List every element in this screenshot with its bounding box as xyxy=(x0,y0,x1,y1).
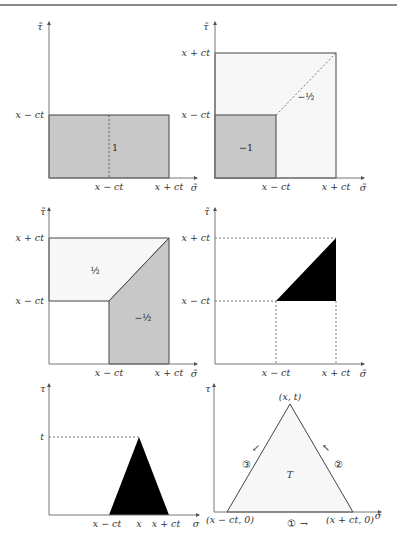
y-tick: t xyxy=(40,431,44,442)
x-axis-label: σ̃ xyxy=(191,182,198,193)
x-tick: x − ct xyxy=(95,181,124,192)
y-tick: x − ct xyxy=(182,295,211,306)
y-tick: x − ct xyxy=(182,109,211,120)
vertex-label-left: (x − ct, 0) xyxy=(206,514,254,525)
edge-label-1: ① xyxy=(287,518,296,529)
x-tick: x + ct xyxy=(155,367,184,378)
x-axis-label: σ xyxy=(193,518,200,529)
region-label: 1 xyxy=(112,142,118,153)
y-axis-label: τ̃ xyxy=(203,21,209,32)
y-tick: x + ct xyxy=(182,47,211,58)
y-axis-label: τ̃ xyxy=(40,206,46,217)
edge-arrow-3: ↙ xyxy=(252,442,260,453)
region-label: T xyxy=(287,469,294,480)
triangle-T xyxy=(227,404,353,512)
vertex-label-apex: (x, t) xyxy=(279,391,302,402)
y-axis-label: τ̃ xyxy=(204,206,210,217)
panel-2: τ̃ σ̃ x + ct x − ct x − ct x + ct −1 −½ xyxy=(182,21,367,193)
region-label: −1 xyxy=(239,142,253,153)
x-tick: x − ct xyxy=(93,518,122,529)
panel-3: τ̃ σ̃ x + ct x − ct x − ct x + ct ½ −½ xyxy=(16,206,198,379)
y-tick: x + ct xyxy=(182,232,211,243)
x-axis-label: σ xyxy=(375,510,382,521)
panel-4: τ̃ σ̃ x + ct x − ct x − ct x + ct xyxy=(182,206,367,379)
x-axis-label: σ̃ xyxy=(191,368,198,379)
y-tick: x + ct xyxy=(16,232,45,243)
x-tick: x xyxy=(136,518,142,529)
y-axis-label: τ̃ xyxy=(37,21,43,32)
y-tick: x − ct xyxy=(16,109,45,120)
x-tick: x − ct xyxy=(262,181,291,192)
x-tick: x − ct xyxy=(262,367,291,378)
edge-label-2: ② xyxy=(334,459,343,470)
x-tick: x + ct xyxy=(322,181,351,192)
x-tick: x + ct xyxy=(322,367,351,378)
black-triangle xyxy=(109,437,169,515)
edge-arrow-2: ↖ xyxy=(322,442,330,453)
y-axis-label: τ xyxy=(40,383,46,394)
x-axis-label: σ̃ xyxy=(360,368,367,379)
y-axis-label: τ xyxy=(205,383,211,394)
x-tick: x + ct xyxy=(155,181,184,192)
vertex-label-right: (x + ct, 0) xyxy=(326,514,374,525)
x-tick: x − ct xyxy=(95,367,124,378)
x-axis-label: σ̃ xyxy=(360,182,367,193)
region-label: −½ xyxy=(134,312,151,323)
panel-6: τ σ (x, t) (x − ct, 0) (x + ct, 0) T ① →… xyxy=(205,383,381,529)
edge-arrow-1: → xyxy=(300,518,308,529)
region-label: ½ xyxy=(90,265,99,276)
edge-label-3: ③ xyxy=(242,459,251,470)
black-triangle xyxy=(276,238,336,301)
panel-5: τ σ t x − ct x x + ct xyxy=(40,383,200,529)
y-tick: x − ct xyxy=(16,295,45,306)
diagonal-label: −½ xyxy=(297,91,314,102)
figure-canvas: τ̃ σ̃ x − ct x − ct x + ct 1 τ̃ σ̃ x + c… xyxy=(0,0,397,544)
panel-1: τ̃ σ̃ x − ct x − ct x + ct 1 xyxy=(16,21,198,193)
x-tick: x + ct xyxy=(152,518,181,529)
